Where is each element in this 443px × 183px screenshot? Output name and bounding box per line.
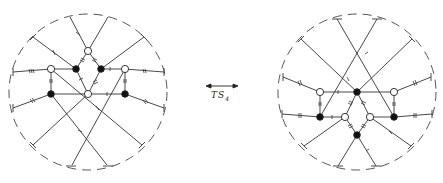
- transform-label-text: TS: [211, 90, 225, 100]
- filled-node: [354, 132, 361, 139]
- open-node: [47, 65, 54, 72]
- left-nodes: [47, 47, 128, 97]
- right-nodes: [316, 88, 397, 138]
- open-node: [84, 90, 91, 97]
- open-node: [121, 65, 128, 72]
- open-node: [366, 113, 373, 120]
- open-node: [341, 113, 348, 120]
- filled-node: [98, 66, 105, 73]
- transform-label-subscript: 4: [225, 95, 230, 102]
- open-node: [316, 88, 323, 95]
- filled-node: [48, 91, 55, 98]
- filled-node: [122, 91, 129, 98]
- filled-node: [391, 114, 398, 121]
- filled-node: [317, 114, 324, 121]
- filled-node: [354, 89, 361, 96]
- transform-label: TS4: [211, 90, 230, 102]
- transform-arrow: [206, 84, 238, 88]
- open-node: [390, 88, 397, 95]
- open-node: [84, 47, 91, 54]
- filled-node: [73, 66, 80, 73]
